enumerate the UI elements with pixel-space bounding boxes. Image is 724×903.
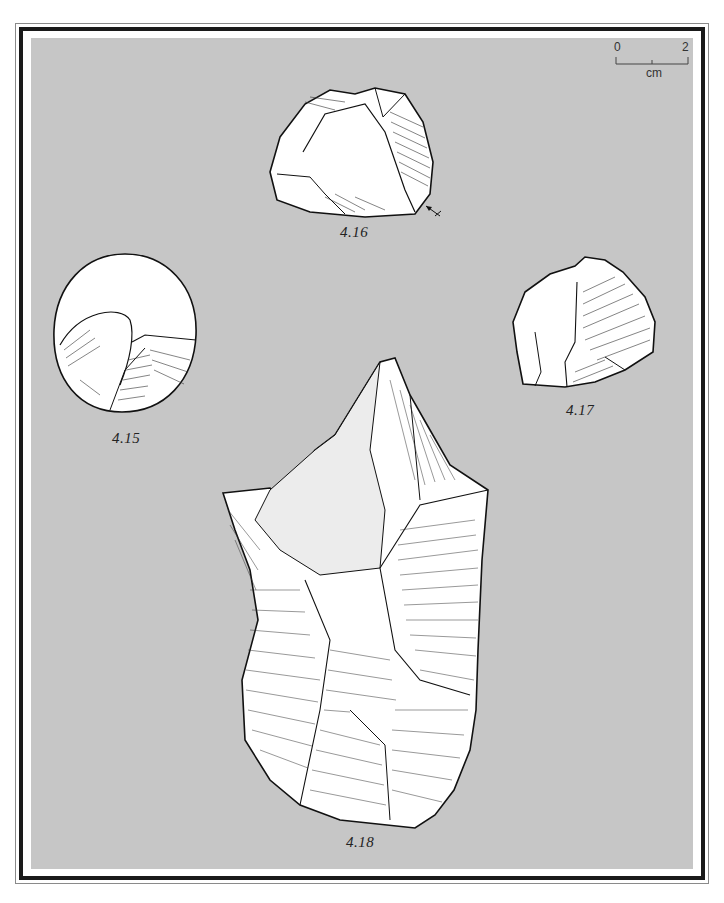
artifact-4-18-drawing <box>220 350 495 830</box>
artifact-4-16-drawing <box>265 82 445 222</box>
figure-label-4-15: 4.15 <box>112 430 140 447</box>
arrow-marker-icon <box>424 204 446 220</box>
artifact-4-15-drawing <box>50 250 200 420</box>
figure-label-4-18: 4.18 <box>346 834 374 851</box>
artifact-4-17-drawing <box>505 252 660 392</box>
figure-label-4-17: 4.17 <box>566 402 594 419</box>
scale-unit-label: cm <box>646 66 662 80</box>
scale-bar: 0 2 cm <box>612 40 694 82</box>
figure-label-4-16: 4.16 <box>340 224 368 241</box>
